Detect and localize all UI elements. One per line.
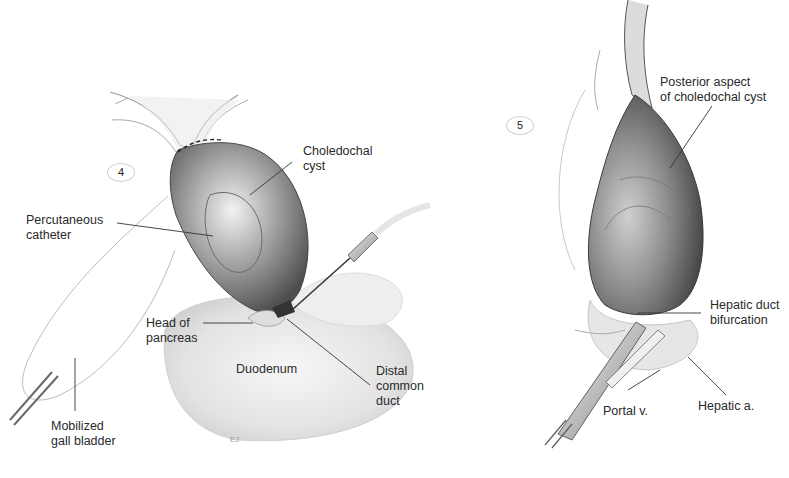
panel-5-drawing [545, 0, 703, 448]
step-number-badge-5: 5 [506, 116, 534, 135]
label-mobilized-gall-bladder: Mobilized gall bladder [51, 419, 116, 449]
label-posterior-aspect-of-choledochal-cyst: Posterior aspect of choledochal cyst [660, 75, 766, 105]
label-portal-vein: Portal v. [603, 404, 648, 419]
label-duodenum: Duodenum [236, 362, 297, 377]
step-number-badge-4: 4 [107, 163, 135, 182]
label-choledochal-cyst: Choledochal cyst [303, 144, 373, 174]
label-head-of-pancreas: Head of pancreas [146, 316, 197, 346]
label-hepatic-artery: Hepatic a. [698, 399, 754, 414]
svg-text:EJ: EJ [230, 435, 239, 444]
label-percutaneous-catheter: Percutaneous catheter [26, 213, 103, 243]
label-hepatic-duct-bifurcation: Hepatic duct bifurcation [710, 298, 779, 328]
label-distal-common-duct: Distal common duct [376, 364, 424, 409]
